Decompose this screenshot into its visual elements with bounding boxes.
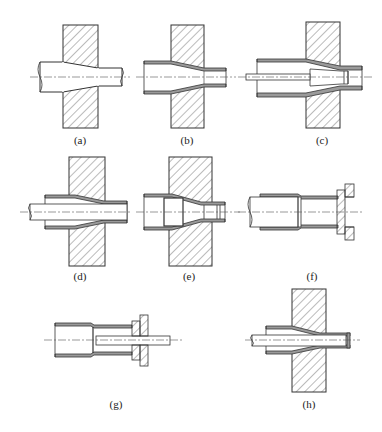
panel-label-a: (a) bbox=[74, 134, 86, 146]
flange-plate-inner-bottom bbox=[132, 345, 140, 360]
flange-plate-outer-top bbox=[345, 184, 354, 197]
rod bbox=[40, 62, 122, 92]
panel-d bbox=[20, 157, 132, 266]
panel-c bbox=[238, 22, 372, 128]
punch-rod bbox=[96, 336, 170, 345]
tube-end-cap bbox=[347, 333, 350, 348]
panel-e bbox=[136, 157, 240, 266]
panel-b bbox=[136, 25, 236, 128]
diagram-canvas bbox=[0, 0, 382, 432]
mandrel bbox=[310, 69, 348, 86]
flange-plate-outer-bottom bbox=[345, 227, 354, 240]
panel-label-e: (e) bbox=[183, 270, 195, 282]
mandrel-rod bbox=[252, 335, 346, 346]
panel-a bbox=[30, 25, 130, 128]
panel-g bbox=[44, 315, 182, 366]
panel-label-h: (h) bbox=[303, 398, 316, 410]
panel-h bbox=[245, 289, 360, 392]
flange-plate-inner-top bbox=[132, 321, 140, 336]
panel-label-c: (c) bbox=[316, 134, 328, 146]
flange-plate-outer-bottom bbox=[140, 345, 148, 366]
panel-label-b: (b) bbox=[181, 134, 194, 146]
panel-label-f: (f) bbox=[307, 270, 318, 282]
panel-f bbox=[238, 184, 362, 240]
panel-label-g: (g) bbox=[110, 398, 123, 410]
flange-plate-outer-top bbox=[140, 315, 148, 336]
panel-label-d: (d) bbox=[74, 270, 87, 282]
